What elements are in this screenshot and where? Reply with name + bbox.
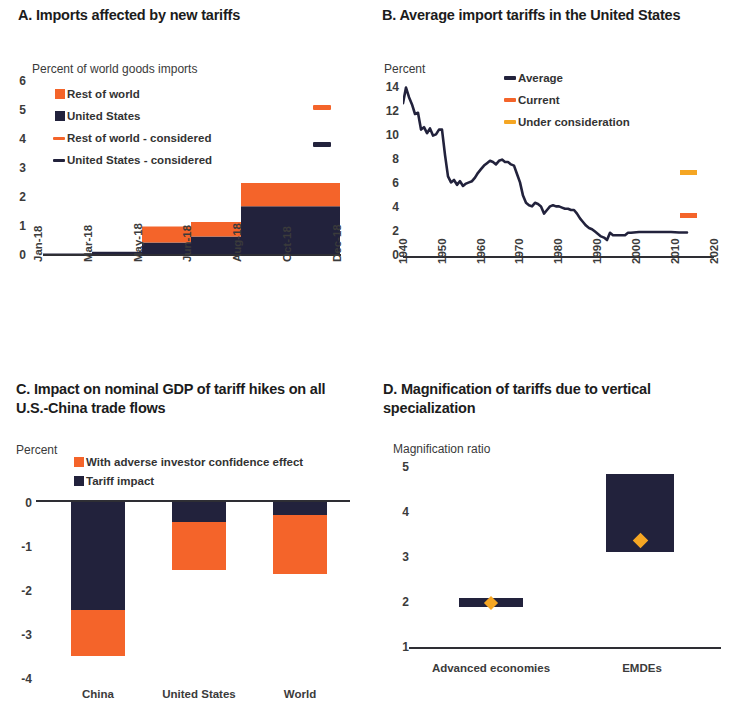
panel-b-ytick-10: 10: [373, 128, 399, 142]
panel-c-legend-label-0: With adverse investor confidence effect: [86, 456, 303, 468]
panel-c-ytick-1: -1: [6, 540, 32, 554]
figure-grid: A. Imports affected by new tariffs Perce…: [0, 0, 738, 713]
panel-a-ytick-6: 6: [6, 74, 26, 88]
panel-b-xtick-7: 2010: [669, 238, 681, 264]
panel-b-xtick-1: 1950: [436, 238, 448, 264]
average-line-icon: [504, 76, 516, 80]
panel-b: B. Average import tariffs in the United …: [369, 0, 738, 370]
panel-a-ytick-2: 2: [6, 190, 26, 204]
panel-a-ytick-4: 4: [6, 132, 26, 146]
panel-b-ytick-4: 4: [373, 200, 399, 214]
panel-a-xtick-0: Jan-18: [32, 226, 44, 262]
panel-c-ytick-4: -4: [6, 672, 32, 686]
panel-c-bar-world-confidence-effect: [273, 515, 327, 574]
panel-c-legend-item-0: With adverse investor confidence effect: [74, 456, 303, 468]
panel-b-line-svg: [403, 84, 714, 256]
panel-c-ytick-3: -3: [6, 628, 32, 642]
panel-a-y-axis-label: Percent of world goods imports: [32, 62, 197, 76]
panel-d-ytick-5: 5: [383, 460, 409, 474]
panel-b-ytick-14: 14: [373, 80, 399, 94]
panel-b-ytick-8: 8: [373, 152, 399, 166]
panel-c-bar-china-tariff-impact: [71, 502, 125, 610]
panel-b-xtick-5: 1990: [591, 238, 603, 264]
panel-a: A. Imports affected by new tariffs Perce…: [0, 0, 369, 370]
panel-d-ytick-4: 4: [383, 505, 409, 519]
panel-b-marker-current: [680, 213, 697, 218]
panel-d-title: D. Magnification of tariffs due to verti…: [383, 380, 713, 418]
panel-a-ytick-0: 0: [6, 248, 26, 262]
panel-b-ytick-6: 6: [373, 176, 399, 190]
panel-d-xtick-emdes: EMDEs: [597, 662, 687, 674]
panel-b-xtick-2: 1960: [475, 238, 487, 264]
panel-b-ytick-12: 12: [373, 104, 399, 118]
panel-d-xtick-advanced-economies: Advanced economies: [421, 662, 561, 674]
panel-d-x-axis-line: [409, 647, 721, 649]
panel-c-bar-china-confidence-effect: [71, 610, 125, 656]
panel-b-legend-item-0: Average: [504, 72, 563, 84]
panel-b-xtick-6: 2000: [630, 238, 642, 264]
panel-d: D. Magnification of tariffs due to verti…: [369, 370, 738, 713]
tariff-impact-swatch-icon: [74, 476, 84, 486]
panel-c-y-axis-label: Percent: [16, 443, 57, 457]
panel-c-title: C. Impact on nominal GDP of tariff hikes…: [16, 380, 356, 418]
panel-b-marker-under-consideration: [680, 170, 697, 175]
with-adverse-confidence-swatch-icon: [74, 457, 84, 467]
panel-b-xtick-0: 1940: [397, 238, 409, 264]
panel-a-xtick-2: May-18: [132, 223, 144, 262]
panel-b-ytick-0: 0: [373, 248, 399, 262]
panel-c-xtick-china: China: [66, 688, 130, 700]
panel-a-ytick-1: 1: [6, 219, 26, 233]
panel-b-xtick-3: 1970: [513, 238, 525, 264]
panel-a-ytick-3: 3: [6, 161, 26, 175]
panel-b-xtick-4: 1980: [552, 238, 564, 264]
panel-d-y-axis-label: Magnification ratio: [393, 442, 490, 456]
panel-c-bar-world-tariff-impact: [273, 502, 327, 515]
panel-b-plot: [403, 84, 714, 256]
panel-b-xtick-8: 2020: [708, 238, 720, 264]
panel-b-y-axis-label: Percent: [384, 62, 425, 76]
panel-c-xtick-united-states: United States: [159, 688, 239, 700]
panel-a-title: A. Imports affected by new tariffs: [18, 6, 348, 25]
panel-a-xtick-4: Aug-18: [231, 223, 243, 262]
panel-a-ytick-5: 5: [6, 103, 26, 117]
panel-a-xtick-3: Jun-18: [181, 225, 193, 262]
panel-d-ytick-1: 1: [383, 640, 409, 654]
panel-c-legend-item-1: Tariff impact: [74, 475, 154, 487]
panel-c-ytick-2: -2: [6, 584, 32, 598]
panel-c-xtick-world: World: [268, 688, 332, 700]
panel-d-ytick-3: 3: [383, 550, 409, 564]
panel-d-ytick-2: 2: [383, 595, 409, 609]
panel-a-xtick-6: Dec-18: [331, 224, 343, 262]
panel-a-xtick-1: Mar-18: [82, 225, 94, 262]
panel-b-legend-label-0: Average: [518, 72, 563, 84]
panel-b-title: B. Average import tariffs in the United …: [382, 6, 722, 25]
panel-b-ytick-2: 2: [373, 224, 399, 238]
panel-b-series-average: [403, 88, 687, 240]
panel-a-xtick-5: Oct-18: [281, 226, 293, 262]
panel-c-ytick-0: 0: [6, 496, 32, 510]
panel-c-legend-label-1: Tariff impact: [86, 475, 154, 487]
panel-c-bar-united-states-tariff-impact: [172, 502, 226, 522]
panel-c-bar-united-states-confidence-effect: [172, 522, 226, 570]
panel-c: C. Impact on nominal GDP of tariff hikes…: [0, 370, 369, 713]
